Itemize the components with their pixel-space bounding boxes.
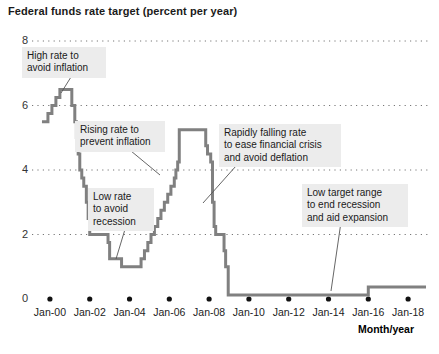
x-axis-tick-marks: [47, 296, 410, 301]
leader-line-low-target-range: [331, 222, 341, 291]
annotation-line: prevent inflation: [80, 136, 160, 148]
annotation-rapidly-falling: Rapidly falling rateto ease financial cr…: [219, 124, 341, 167]
x-axis-tick-label: Jan-18: [392, 306, 424, 318]
x-axis-tick-dot: [406, 296, 411, 301]
annotation-line: to end recession: [307, 199, 403, 211]
annotation-line: to ease financial crisis: [224, 139, 336, 151]
x-axis-tick-dot: [47, 296, 52, 301]
x-axis-tick-dot: [366, 296, 371, 301]
annotation-leader-lines: [61, 77, 341, 291]
x-axis-tick-label: Jan-02: [74, 306, 106, 318]
leader-line-rising-rate: [131, 151, 160, 175]
leader-line-rapidly-falling: [203, 166, 236, 203]
y-axis-tick-label: 6: [12, 99, 28, 111]
x-axis-tick-label: Jan-14: [312, 306, 344, 318]
x-axis-tick-dot: [87, 296, 92, 301]
y-axis-tick-label: 2: [12, 228, 28, 240]
x-axis-tick-label: Jan-06: [153, 306, 185, 318]
y-axis-tick-label: 8: [12, 34, 28, 46]
annotation-line: recession: [93, 216, 149, 228]
annotation-line: High rate to: [27, 50, 101, 62]
annotation-high-rate: High rate toavoid inflation: [22, 47, 106, 78]
x-axis-tick-dot: [167, 296, 172, 301]
chart-container: Federal funds rate target (percent per y…: [0, 0, 439, 354]
x-axis-tick-label: Jan-12: [273, 306, 305, 318]
annotation-low-target-range: Low target rangeto end recessionand aid …: [302, 184, 408, 227]
x-axis-tick-dot: [127, 296, 132, 301]
y-axis-tick-label: 4: [12, 163, 28, 175]
annotation-line: avoid inflation: [27, 62, 101, 74]
x-axis-tick-label: Jan-08: [193, 306, 225, 318]
annotation-line: Rapidly falling rate: [224, 127, 336, 139]
x-axis-tick-dot: [326, 296, 331, 301]
x-axis-tick-label: Jan-04: [113, 306, 145, 318]
annotation-line: to avoid: [93, 203, 149, 215]
annotation-line: and aid expansion: [307, 212, 403, 224]
x-axis-tick-label: Jan-16: [352, 306, 384, 318]
annotation-rising-rate: Rising rate toprevent inflation: [75, 121, 165, 152]
leader-line-low-rate: [116, 226, 126, 259]
annotation-line: Low target range: [307, 187, 403, 199]
annotation-low-rate: Low rateto avoidrecession: [88, 188, 154, 231]
y-axis-tick-label: 0: [12, 292, 28, 304]
x-axis-tick-label: Jan-00: [34, 306, 66, 318]
x-axis-tick-dot: [207, 296, 212, 301]
annotation-line: and avoid deflation: [224, 152, 336, 164]
x-axis-tick-dot: [286, 296, 291, 301]
annotation-line: Rising rate to: [80, 124, 160, 136]
x-axis-caption: Month/year: [358, 323, 414, 335]
x-axis-tick-label: Jan-10: [233, 306, 265, 318]
annotation-line: Low rate: [93, 191, 149, 203]
x-axis-tick-dot: [246, 296, 251, 301]
